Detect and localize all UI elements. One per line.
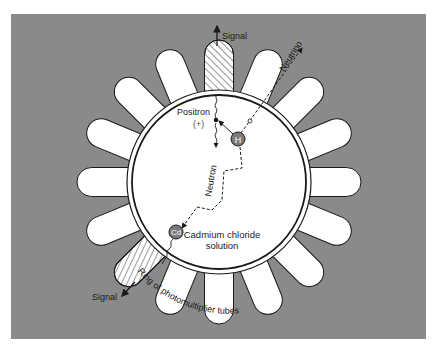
solution-label-line1: Cadmium chloride [184,229,261,240]
photomultiplier-tube-active [205,40,234,98]
positron-charge: (+) [193,119,204,129]
photomultiplier-tube [77,168,135,197]
cadmium-label: Cd [171,228,181,237]
signal-bottom-label: Signal [92,292,117,302]
hydrogen-nucleus: H [231,132,245,146]
hydrogen-label: H [235,135,242,145]
signal-top-label: Signal [222,31,247,41]
positron-dot [214,118,219,123]
photomultiplier-tube [303,168,361,197]
positron-label: Positron [177,107,210,117]
solution-label-line2: solution [206,240,239,251]
diagram-canvas: Signal Signal Neutrino Positron (+) H Ne… [0,0,439,353]
